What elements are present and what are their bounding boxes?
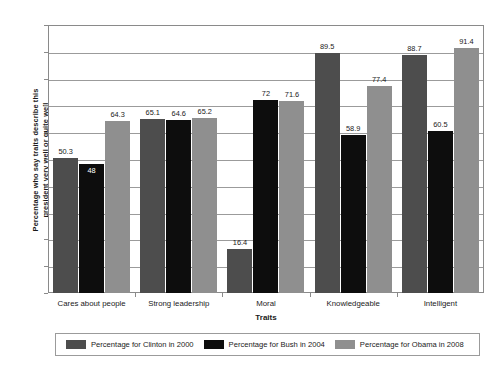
bar: 64.3 [105, 121, 130, 293]
x-tick-mark [397, 293, 398, 297]
x-tick-mark [222, 293, 223, 297]
bar-group: 89.558.977.4 [310, 25, 397, 293]
bar: 50.3 [53, 158, 78, 293]
legend-label: Percentage for Bush in 2004 [229, 340, 325, 349]
bar-value-label: 65.2 [198, 107, 212, 116]
bar-value-label: 64.3 [110, 110, 124, 119]
legend-swatch [335, 340, 355, 349]
x-axis-title: Traits [48, 313, 484, 322]
bar-value-label: 89.5 [320, 42, 334, 51]
bar-group: 88.760.591.4 [397, 25, 484, 293]
bar: 65.1 [140, 119, 165, 293]
bar: 71.6 [279, 101, 304, 293]
bar-value-label: 64.6 [172, 109, 186, 118]
bar: 65.2 [192, 118, 217, 293]
x-tick-mark [135, 293, 136, 297]
bar: 64.6 [166, 120, 191, 293]
bar-group: 50.34864.3 [48, 25, 135, 293]
bar: 48 [79, 164, 104, 293]
bar-group: 65.164.665.2 [135, 25, 222, 293]
bar-value-label: 16.4 [233, 238, 247, 247]
bar: 60.5 [428, 131, 453, 293]
legend-swatch [204, 340, 224, 349]
legend-item[interactable]: Percentage for Bush in 2004 [204, 340, 325, 349]
bar: 89.5 [315, 53, 340, 293]
bar: 72 [253, 100, 278, 293]
x-category-label: Moral [256, 299, 276, 308]
bar-value-label: 65.1 [146, 108, 160, 117]
legend-swatch [66, 340, 86, 349]
legend-label: Percentage for Clinton in 2000 [91, 340, 194, 349]
x-category-label: Strong leadership [148, 299, 209, 308]
bar-value-label: 71.6 [285, 90, 299, 99]
y-axis-title-line-1: Percentage who say traits describe this [31, 35, 41, 285]
bar-value-label: 48 [87, 166, 95, 175]
bar: 58.9 [341, 135, 366, 293]
x-tick-mark [310, 293, 311, 297]
legend-label: Percentage for Obama in 2008 [360, 340, 464, 349]
bar-group: 16.47271.6 [222, 25, 309, 293]
bar: 77.4 [367, 86, 392, 293]
x-category-label: Cares about people [58, 299, 126, 308]
bar-value-label: 50.3 [58, 147, 72, 156]
bar-value-label: 58.9 [346, 124, 360, 133]
bars-layer: 50.34864.365.164.665.216.47271.689.558.9… [48, 25, 484, 293]
bar-chart: Percentage who say traits describe this … [0, 0, 499, 373]
bar-value-label: 77.4 [372, 75, 386, 84]
bar: 91.4 [454, 48, 479, 293]
x-category-label: Knowledgeable [327, 299, 380, 308]
y-tick-mark [44, 293, 48, 294]
bar-value-label: 91.4 [459, 37, 473, 46]
bar: 16.4 [227, 249, 252, 293]
bar-value-label: 88.7 [407, 44, 421, 53]
legend-item[interactable]: Percentage for Obama in 2008 [335, 340, 464, 349]
bar-value-label: 60.5 [433, 120, 447, 129]
bar-value-label: 72 [262, 89, 270, 98]
x-category-label: Intelligent [424, 299, 457, 308]
legend-item[interactable]: Percentage for Clinton in 2000 [66, 340, 194, 349]
bar: 88.7 [402, 55, 427, 293]
chart-legend: Percentage for Clinton in 2000Percentage… [55, 333, 480, 356]
